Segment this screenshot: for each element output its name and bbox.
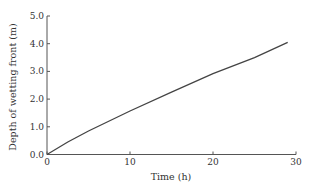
x-tick-label: 20: [207, 157, 219, 167]
x-axis: 0102030: [44, 152, 302, 167]
data-line: [47, 42, 288, 154]
y-tick-label: 3.0: [30, 66, 45, 76]
y-axis: 0.01.02.03.04.05.0: [30, 11, 50, 160]
line-chart: 0.01.02.03.04.05.0 0102030 Time (h) Dept…: [0, 0, 312, 190]
y-axis-label: Depth of wetting front (m): [7, 23, 18, 150]
y-tick-label: 2.0: [30, 94, 45, 104]
y-tick-label: 5.0: [30, 11, 45, 21]
x-tick-label: 10: [124, 157, 136, 167]
y-tick-label: 0.0: [30, 150, 45, 160]
x-tick-label: 30: [290, 157, 302, 167]
y-tick-label: 4.0: [30, 39, 45, 49]
x-tick-label: 0: [44, 157, 50, 167]
y-tick-label: 1.0: [30, 122, 45, 132]
x-axis-label: Time (h): [151, 171, 192, 182]
